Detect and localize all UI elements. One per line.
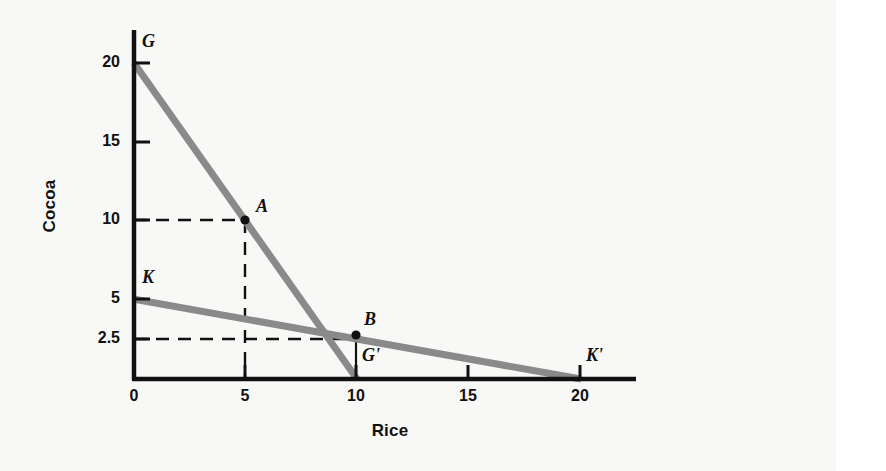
data-point-a [240, 215, 249, 224]
x-axis-title: Rice [330, 421, 450, 441]
y-tick-label-2.5: 2.5 [60, 329, 120, 347]
annotation-label-g: G [142, 31, 155, 52]
y-tick-label-10: 10 [60, 210, 120, 228]
x-tick-label-15: 15 [438, 387, 498, 405]
y-tick-label-5: 5 [60, 289, 120, 307]
annotation-label-a: A [256, 196, 268, 217]
annotation-label-k-prime: K' [586, 345, 603, 366]
data-point-b [351, 330, 360, 339]
y-tick-label-15: 15 [60, 132, 120, 150]
y-tick-label-20: 20 [60, 53, 120, 71]
x-tick-label-5: 5 [215, 387, 275, 405]
annotation-label-b: B [364, 309, 376, 330]
annotation-label-g-prime: G' [362, 345, 380, 366]
x-tick-label-0: 0 [104, 387, 164, 405]
y-axis-title: Cocoa [40, 151, 60, 261]
x-tick-label-10: 10 [326, 387, 386, 405]
figure-canvas: 20 15 10 5 2.5 0 5 10 15 20 G G' K K' A … [0, 0, 886, 471]
x-tick-label-20: 20 [550, 387, 610, 405]
annotation-label-k: K [142, 267, 154, 288]
